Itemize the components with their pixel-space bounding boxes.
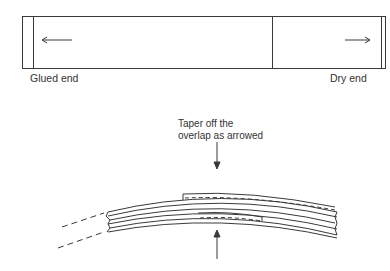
arrow-left-icon xyxy=(42,37,72,43)
glued-end-label: Glued end xyxy=(30,72,78,85)
taper-annotation-line2: overlap as arrowed xyxy=(178,130,263,142)
arrow-right-icon xyxy=(345,37,370,43)
arrow-up-icon xyxy=(214,230,220,259)
strip-box xyxy=(23,17,386,69)
taper-annotation-line1: Taper off the xyxy=(178,118,263,130)
dry-end-label: Dry end xyxy=(330,72,367,85)
taper-annotation: Taper off the overlap as arrowed xyxy=(178,118,263,142)
arrow-down-icon xyxy=(214,142,220,169)
laminated-strips xyxy=(58,193,337,248)
